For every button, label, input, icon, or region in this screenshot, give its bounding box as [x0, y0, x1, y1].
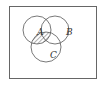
label-a: A [36, 27, 44, 37]
circle-b [41, 16, 69, 44]
universal-set-rectangle [10, 7, 97, 79]
label-b: B [65, 27, 73, 37]
venn-diagram: A B C [0, 0, 101, 86]
label-c: C [50, 50, 57, 60]
